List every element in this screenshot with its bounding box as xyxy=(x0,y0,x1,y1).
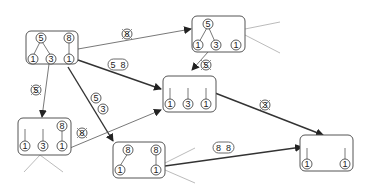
node-b-value: 3 xyxy=(213,40,218,50)
node-f-value: 1 xyxy=(304,159,309,169)
node-f-value: 1 xyxy=(342,159,347,169)
edge-label-a-e: 5 3 xyxy=(91,93,108,114)
svg-text:8: 8 xyxy=(120,60,125,70)
node-c: 1 3 1 xyxy=(163,76,216,112)
node-b-value: 1 xyxy=(233,40,238,50)
node-d-value: 3 xyxy=(40,141,45,151)
node-d-value: 1 xyxy=(59,141,64,151)
edge-label-a-d: 5 xyxy=(31,85,41,95)
node-a: 5 8 1 3 1 xyxy=(26,31,78,64)
svg-text:8: 8 xyxy=(124,29,129,39)
node-e-value: 1 xyxy=(117,165,122,175)
svg-text:8: 8 xyxy=(216,143,221,153)
svg-text:5: 5 xyxy=(33,85,38,95)
diagram-canvas: 5 8 1 3 1 5 1 3 1 1 3 1 8 1 3 1 xyxy=(0,0,368,186)
svg-text:3: 3 xyxy=(100,104,105,114)
svg-text:3: 3 xyxy=(262,100,267,110)
svg-text:8: 8 xyxy=(79,128,84,138)
node-a-value: 1 xyxy=(66,54,71,64)
edge-c-f xyxy=(215,93,323,135)
node-d-value: 8 xyxy=(59,121,64,131)
svg-text:5: 5 xyxy=(203,60,208,70)
edge-label-e-f: 8 8 xyxy=(213,142,234,153)
node-c-value: 1 xyxy=(203,99,208,109)
edge-label-a-b: 8 xyxy=(122,29,132,39)
node-e-value: 8 xyxy=(153,145,158,155)
svg-text:5: 5 xyxy=(110,60,115,70)
node-d: 8 1 3 1 xyxy=(18,118,71,155)
svg-text:5: 5 xyxy=(93,93,98,103)
edge-a-d xyxy=(42,64,49,117)
edge-label-d-c: 8 xyxy=(77,128,87,138)
node-b-value: 5 xyxy=(205,19,210,29)
node-e-value: 8 xyxy=(125,145,130,155)
node-e-value: 1 xyxy=(153,165,158,175)
node-a-value: 8 xyxy=(66,33,71,43)
node-d-value: 1 xyxy=(22,141,27,151)
node-c-value: 3 xyxy=(185,99,190,109)
node-b-value: 1 xyxy=(195,40,200,50)
edge-label-c-f: 3 xyxy=(260,100,270,110)
node-e: 8 8 1 1 xyxy=(113,142,165,178)
edge-label-a-c: 5 8 xyxy=(108,59,128,70)
edge-a-e xyxy=(68,67,113,141)
edge-a-b xyxy=(78,29,191,49)
node-f: 1 1 xyxy=(300,135,353,171)
node-a-value: 3 xyxy=(48,54,53,64)
node-c-value: 1 xyxy=(167,99,172,109)
node-a-value: 1 xyxy=(30,54,35,64)
node-a-value: 5 xyxy=(38,33,43,43)
node-b: 5 1 3 1 xyxy=(192,16,245,52)
svg-text:8: 8 xyxy=(226,143,231,153)
edge-label-b-c: 5 xyxy=(201,60,211,70)
